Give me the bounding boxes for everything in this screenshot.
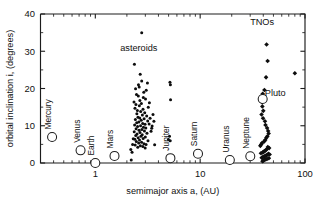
asteroid-point	[130, 159, 133, 162]
asteroid-point	[143, 111, 146, 114]
x-axis-title: semimajor axis a, (AU)	[126, 186, 219, 196]
planet-label-saturn: Saturn	[189, 121, 199, 146]
asteroid-point	[152, 113, 155, 116]
planet-label-neptune: Neptune	[241, 117, 251, 149]
y-tick-label: 20	[25, 83, 35, 94]
asteroid-point	[144, 147, 147, 150]
asteroid-point	[139, 131, 142, 134]
asteroid-point	[134, 103, 137, 106]
asteroid-point	[148, 122, 151, 125]
asteroid-point	[135, 121, 138, 124]
x-tick-label: 10	[195, 168, 205, 179]
asteroid-point	[135, 112, 138, 115]
planet-label-mars: Mars	[106, 130, 116, 149]
planet-marker-earth	[91, 159, 100, 168]
asteroid-point	[169, 98, 172, 101]
chart-figure: 110100 010203040 MercuryVenusEarthMarsJu…	[0, 0, 322, 213]
asteroid-point	[145, 115, 148, 118]
asteroid-point	[146, 81, 149, 84]
planet-marker-neptune	[246, 152, 255, 161]
asteroid-point	[169, 83, 172, 86]
asteroid-point	[131, 143, 134, 146]
planet-marker-mercury	[48, 132, 57, 141]
asteroid-point	[139, 110, 142, 113]
asteroid-point	[168, 81, 171, 84]
asteroid-point	[139, 135, 142, 138]
asteroid-point	[138, 104, 141, 107]
asteroid-point	[133, 63, 136, 66]
x-tick-label: 1	[93, 168, 98, 179]
asteroid-point	[140, 102, 143, 105]
asteroid-point	[142, 108, 145, 111]
planet-label-uranus: Uranus	[221, 126, 231, 153]
planet-marker-jupiter	[166, 154, 175, 163]
tno-point	[260, 104, 265, 109]
asteroid-point	[140, 119, 143, 122]
asteroid-point	[132, 137, 135, 140]
asteroid-point	[134, 87, 137, 90]
x-tick-label: 100	[297, 168, 313, 179]
asteroid-point	[152, 120, 155, 123]
asteroid-point	[144, 97, 147, 100]
y-axis-title: orbital inclination i, (degrees)	[5, 30, 15, 147]
asteroid-point	[136, 109, 139, 112]
planet-label-mercury: Mercury	[43, 98, 53, 129]
asteroid-point	[142, 137, 145, 140]
y-tick-label: 0	[30, 157, 35, 168]
planet-label-venus: Venus	[72, 120, 82, 143]
asteroid-point	[150, 130, 153, 133]
planet-label-jupiter: Jupiter	[161, 125, 171, 150]
asteroid-point	[146, 119, 149, 122]
asteroid-point	[134, 144, 137, 147]
tno-point	[293, 71, 298, 76]
asteroid-point	[136, 146, 139, 149]
asteroid-point	[129, 148, 132, 151]
planet-marker-saturn	[194, 149, 203, 158]
y-tick-label: 30	[25, 46, 35, 57]
y-tick-label: 10	[25, 120, 35, 131]
asteroid-point	[140, 128, 143, 131]
asteroid-point	[133, 100, 136, 103]
planet-marker-mars	[110, 151, 119, 160]
asteroid-point	[138, 86, 141, 89]
asteroid-point	[134, 134, 137, 137]
asteroid-point	[140, 31, 143, 34]
y-axis-tick-labels: 010203040	[25, 8, 35, 168]
asteroid-point	[144, 123, 147, 126]
annotation-pluto: Pluto	[265, 88, 286, 98]
scatter-plot-canvas: 110100 010203040 MercuryVenusEarthMarsJu…	[0, 0, 322, 213]
asteroid-point	[133, 130, 136, 133]
asteroid-point	[148, 101, 151, 104]
asteroid-point	[138, 138, 141, 141]
asteroid-point	[147, 106, 150, 109]
group-annotations: asteroidsTNOsPluto	[120, 17, 286, 98]
y-tick-label: 40	[25, 8, 35, 19]
asteroid-point	[145, 143, 148, 146]
asteroid-point	[135, 127, 138, 130]
asteroid-point	[131, 151, 134, 154]
asteroid-point	[137, 141, 140, 144]
planet-marker-venus	[76, 146, 85, 155]
asteroid-point	[133, 124, 136, 127]
asteroid-point	[139, 73, 142, 76]
asteroid-point	[149, 117, 152, 120]
tno-point	[264, 42, 269, 47]
asteroid-point	[142, 91, 145, 94]
asteroid-point	[140, 80, 143, 83]
planet-marker-uranus	[225, 156, 234, 165]
asteroid-point	[145, 132, 148, 135]
tno-point	[264, 75, 269, 80]
asteroid-point	[151, 125, 154, 128]
x-axis-tick-labels: 110100	[93, 168, 313, 179]
annotation-asteroids: asteroids	[120, 43, 158, 53]
asteroid-point	[139, 124, 142, 127]
asteroid-point	[137, 94, 140, 97]
asteroid-point	[153, 143, 156, 146]
asteroid-point	[146, 139, 149, 142]
asteroid-point	[143, 129, 146, 132]
asteroid-point	[138, 99, 141, 102]
asteroid-point	[133, 107, 136, 110]
planet-label-earth: Earth	[86, 135, 96, 155]
asteroid-point	[144, 126, 147, 129]
asteroid-point	[134, 118, 137, 121]
